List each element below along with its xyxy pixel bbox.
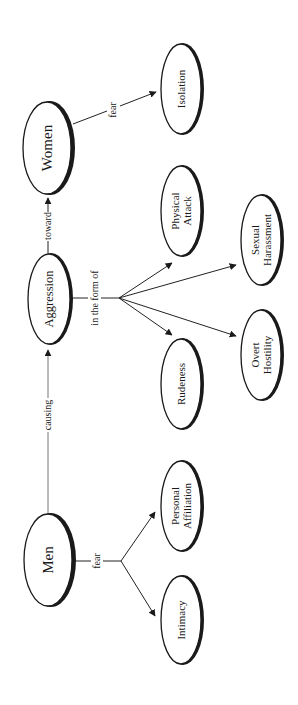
node-label-personal-affiliation-line2: Affiliation <box>181 482 193 529</box>
edge-label-in-the-form-of: in the form of <box>89 270 100 326</box>
node-physical-attack: Physical Attack <box>161 165 204 257</box>
node-rudeness: Rudeness <box>161 338 204 430</box>
edge-aggression-in-the-form-of: in the form of <box>72 263 236 336</box>
node-label-personal-affiliation-line1: Personal <box>169 487 181 525</box>
edge-label-toward: toward <box>42 212 53 240</box>
edge-label-fear-men: fear <box>91 553 102 569</box>
node-women: Women <box>23 101 75 195</box>
node-label-women: Women <box>39 124 55 171</box>
node-label-intimacy: Intimacy <box>175 600 187 640</box>
node-label-sexual-harassment-line1: Sexual <box>249 225 261 255</box>
edge-men-fear: fear <box>75 512 155 616</box>
node-label-overt-hostility-line2: Hostility <box>261 335 273 374</box>
node-label-isolation: Isolation <box>175 69 187 108</box>
edge-women-fear-isolation: fear <box>73 92 156 124</box>
node-label-physical-attack-line2: Attack <box>181 196 193 226</box>
node-label-sexual-harassment-line2: Harassment <box>261 214 273 266</box>
node-intimacy: Intimacy <box>161 575 204 665</box>
node-label-men: Men <box>40 546 56 574</box>
edge-label-causing: causing <box>42 400 53 431</box>
node-men: Men <box>24 513 76 607</box>
node-label-rudeness: Rudeness <box>175 363 187 405</box>
node-sexual-harassment: Sexual Harassment <box>241 194 284 286</box>
edge-label-fear-women: fear <box>107 102 118 118</box>
node-label-physical-attack-line1: Physical <box>169 192 181 229</box>
node-isolation: Isolation <box>161 43 204 135</box>
concept-map: causing toward fear in the form of fear … <box>0 0 298 705</box>
edge-men-causing-aggression: causing <box>42 350 53 513</box>
node-aggression: Aggression <box>28 253 73 345</box>
edge-aggression-toward-women: toward <box>42 198 53 253</box>
node-label-overt-hostility-line1: Overt <box>249 342 261 367</box>
node-label-aggression: Aggression <box>42 270 56 328</box>
node-overt-hostility: Overt Hostility <box>241 309 284 401</box>
node-personal-affiliation: Personal Affiliation <box>161 460 204 552</box>
